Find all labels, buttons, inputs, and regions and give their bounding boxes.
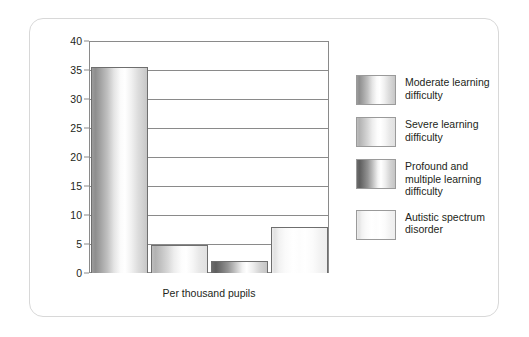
y-tick-label: 30 (70, 94, 82, 105)
legend-item-label: Autistic spectrum disorder (405, 210, 485, 236)
legend-item: Profound and multiple learning difficult… (356, 159, 496, 198)
legend-swatch-icon (356, 75, 396, 105)
chart-legend: Moderate learning difficultySevere learn… (356, 75, 496, 252)
y-tick-label: 5 (76, 239, 82, 250)
y-tick-label: 0 (76, 268, 82, 279)
legend-item-label: Profound and multiple learning difficult… (405, 159, 481, 198)
y-tick-label: 40 (70, 36, 82, 47)
legend-item: Severe learning difficulty (356, 117, 496, 147)
y-tick-label: 15 (70, 181, 82, 192)
bar-4 (271, 227, 328, 273)
legend-swatch-icon (356, 117, 396, 147)
x-axis-caption: Per thousand pupils (89, 287, 329, 299)
plot-region: 4035302520151050 (89, 41, 329, 273)
legend-item: Autistic spectrum disorder (356, 210, 496, 240)
chart-card: 4035302520151050 Per thousand pupils Mod… (29, 18, 499, 317)
y-tick-label: 10 (70, 210, 82, 221)
legend-item-label: Severe learning difficulty (405, 117, 479, 143)
legend-item: Moderate learning difficulty (356, 75, 496, 105)
bars (89, 41, 329, 273)
y-tick-label: 35 (70, 65, 82, 76)
bar-2 (151, 245, 208, 273)
bar-3 (211, 261, 268, 273)
y-tick-label: 25 (70, 123, 82, 134)
legend-swatch-icon (356, 210, 396, 240)
y-tick-label: 20 (70, 152, 82, 163)
legend-item-label: Moderate learning difficulty (405, 75, 490, 101)
legend-swatch-icon (356, 159, 396, 189)
bar-1 (91, 67, 148, 273)
